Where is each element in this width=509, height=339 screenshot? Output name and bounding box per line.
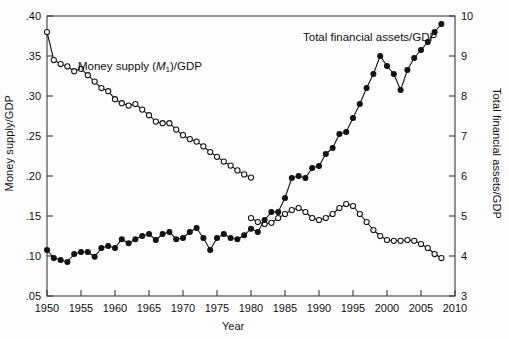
svg-text:8: 8: [461, 90, 467, 102]
y-axis-right-title: Total financial assets/GDP: [487, 88, 503, 219]
svg-text:1950: 1950: [35, 302, 59, 314]
svg-text:1970: 1970: [171, 302, 195, 314]
svg-text:.05: .05: [26, 290, 41, 302]
svg-text:1975: 1975: [205, 302, 229, 314]
svg-text:.25: .25: [26, 130, 41, 142]
svg-text:2000: 2000: [375, 302, 399, 314]
svg-text:2010: 2010: [443, 302, 467, 314]
money-label-subscript: 1: [166, 65, 170, 74]
money-label-symbol: M: [156, 60, 166, 72]
svg-text:1965: 1965: [137, 302, 161, 314]
svg-text:2005: 2005: [409, 302, 433, 314]
svg-text:.20: .20: [26, 170, 41, 182]
svg-text:6: 6: [461, 170, 467, 182]
svg-text:1980: 1980: [239, 302, 263, 314]
svg-text:1955: 1955: [69, 302, 93, 314]
svg-text:1985: 1985: [273, 302, 297, 314]
y-axis-left-title: Money supply/GDP: [3, 95, 19, 191]
svg-text:.15: .15: [26, 210, 41, 222]
money-label-prefix: Money supply (: [78, 60, 156, 72]
svg-text:10: 10: [461, 10, 473, 22]
svg-text:1995: 1995: [341, 302, 365, 314]
svg-text:.10: .10: [26, 250, 41, 262]
svg-text:.40: .40: [26, 10, 41, 22]
series-label-money-supply: Money supply (M1)/GDP: [78, 60, 202, 72]
series-label-total-financial-assets: Total financial assets/GDP: [303, 31, 437, 43]
svg-text:4: 4: [461, 250, 467, 262]
figure-container: .05.10.15.20.25.30.35.403456789101950195…: [0, 0, 509, 339]
svg-text:1990: 1990: [307, 302, 331, 314]
chart-canvas: .05.10.15.20.25.30.35.403456789101950195…: [0, 0, 509, 339]
x-axis-title: Year: [222, 320, 244, 332]
svg-text:1960: 1960: [103, 302, 127, 314]
svg-text:5: 5: [461, 210, 467, 222]
svg-text:3: 3: [461, 290, 467, 302]
money-label-suffix: )/GDP: [170, 60, 202, 72]
svg-text:7: 7: [461, 130, 467, 142]
svg-text:.35: .35: [26, 50, 41, 62]
svg-text:9: 9: [461, 50, 467, 62]
svg-text:.30: .30: [26, 90, 41, 102]
